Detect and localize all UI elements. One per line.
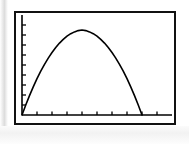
scan-artifact-bottom-edge <box>0 126 189 144</box>
plot-area <box>16 13 174 123</box>
calculator-screen-frame <box>14 11 176 125</box>
parabola-plot-svg <box>16 13 174 123</box>
parabola-curve <box>22 30 142 115</box>
scan-artifact-left-edge <box>0 0 8 144</box>
screenshot-root <box>0 0 189 144</box>
